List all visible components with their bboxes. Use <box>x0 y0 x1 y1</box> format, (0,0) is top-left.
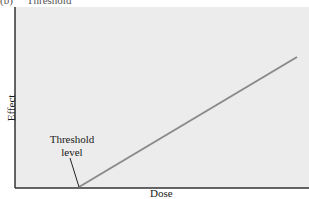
annotation-line2: level <box>40 146 104 159</box>
plot-background <box>15 7 309 188</box>
plot-area <box>0 0 309 199</box>
annotation-line1: Threshold <box>40 133 104 146</box>
x-axis-label: Dose <box>150 187 173 199</box>
y-axis-label: Effect <box>5 93 17 123</box>
threshold-annotation: Threshold level <box>40 133 104 159</box>
